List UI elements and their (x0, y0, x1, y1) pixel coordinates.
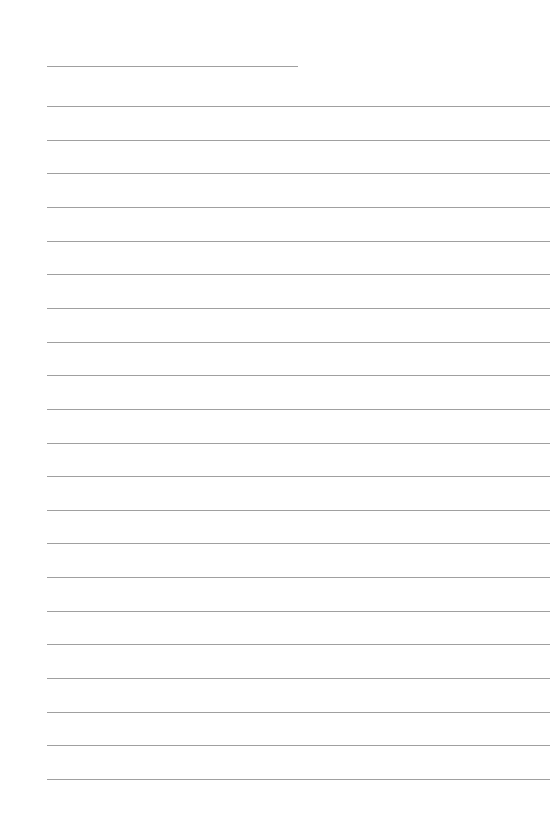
ruled-line (47, 140, 550, 141)
ruled-line (47, 274, 550, 275)
ruled-line (47, 409, 550, 410)
ruled-line (47, 342, 550, 343)
ruled-line (47, 443, 550, 444)
ruled-line (47, 308, 550, 309)
header-line (47, 66, 298, 67)
ruled-line (47, 207, 550, 208)
ruled-line (47, 375, 550, 376)
ruled-line (47, 476, 550, 477)
ruled-line (47, 678, 550, 679)
ruled-line (47, 644, 550, 645)
ruled-line (47, 173, 550, 174)
ruled-line (47, 106, 550, 107)
ruled-line (47, 745, 550, 746)
ruled-line (47, 779, 550, 780)
ruled-line (47, 577, 550, 578)
ruled-line (47, 611, 550, 612)
ruled-line (47, 712, 550, 713)
ruled-line (47, 543, 550, 544)
lined-paper-page (0, 0, 551, 835)
ruled-line (47, 510, 550, 511)
ruled-line (47, 241, 550, 242)
